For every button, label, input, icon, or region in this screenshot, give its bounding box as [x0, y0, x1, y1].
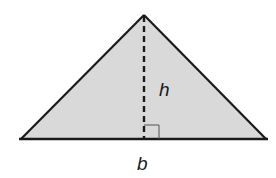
height-label: h [159, 80, 170, 99]
triangle-diagram: h b [0, 0, 276, 178]
triangle-figure [0, 0, 276, 178]
base-label: b [137, 154, 148, 173]
